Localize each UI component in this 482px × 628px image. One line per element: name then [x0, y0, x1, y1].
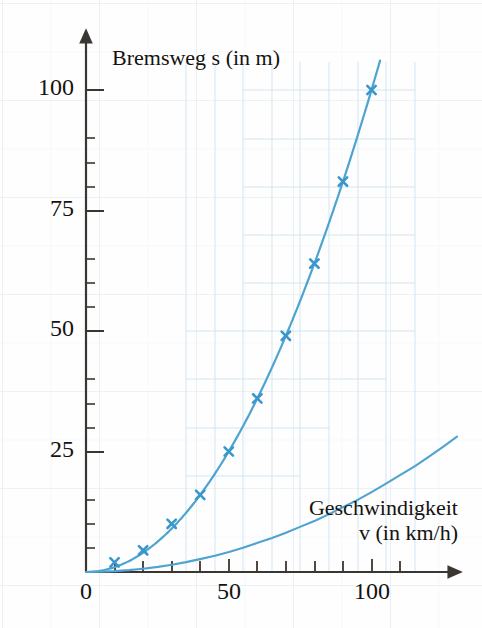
- data-point: [110, 558, 118, 566]
- x-tick-label-100: 100: [337, 578, 407, 605]
- braking-distance-chart: Bremsweg s (in m) Geschwindigkeit v (in …: [0, 0, 482, 628]
- x-tick-label-50: 50: [194, 578, 264, 605]
- y-tick-label-75: 75: [18, 195, 74, 222]
- x-axis-label-line1: Geschwindigkeit: [309, 496, 458, 521]
- x-axis-label: Geschwindigkeit v (in km/h): [309, 496, 458, 545]
- y-tick-label-100: 100: [18, 74, 74, 101]
- x-axis-label-line2: v (in km/h): [309, 521, 458, 546]
- y-axis-label: Bremsweg s (in m): [112, 46, 280, 71]
- data-point: [167, 520, 175, 528]
- data-point: [225, 447, 233, 455]
- y-tick-label-25: 25: [18, 436, 74, 463]
- data-point: [253, 394, 261, 402]
- origin-label: 0: [51, 578, 121, 605]
- y-tick-label-50: 50: [18, 315, 74, 342]
- data-point: [282, 332, 290, 340]
- data-point: [196, 491, 204, 499]
